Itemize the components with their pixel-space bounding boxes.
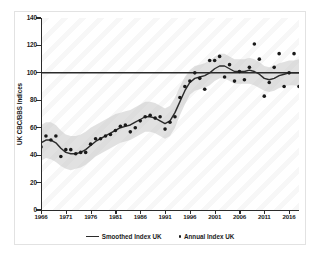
legend-entry-annual: Annual Index UK xyxy=(179,233,235,240)
data-point xyxy=(54,134,58,138)
data-point xyxy=(248,66,252,70)
data-point xyxy=(262,94,266,98)
data-point xyxy=(129,130,133,134)
x-axis-line xyxy=(41,210,299,211)
y-tick-label: 120 xyxy=(13,41,37,48)
data-point xyxy=(109,133,113,137)
data-point xyxy=(69,148,73,152)
chart-legend: Smoothed Index UK Annual Index UK xyxy=(14,233,306,240)
data-point xyxy=(119,125,123,129)
legend-entry-smoothed: Smoothed Index UK xyxy=(86,233,162,240)
data-point xyxy=(267,81,271,85)
data-point xyxy=(272,66,276,70)
data-point xyxy=(143,115,147,119)
data-point xyxy=(292,52,296,56)
data-point xyxy=(198,77,202,81)
data-point xyxy=(203,88,207,92)
data-point xyxy=(223,75,227,79)
data-point xyxy=(238,70,242,74)
y-tick-label: 80 xyxy=(13,96,37,103)
data-point xyxy=(104,134,108,138)
plot-svg xyxy=(41,18,299,210)
data-point xyxy=(253,42,257,46)
data-point xyxy=(183,85,187,89)
plot-area xyxy=(41,18,299,210)
y-axis-title: UK CBC/BBS Indices xyxy=(16,83,23,145)
data-point xyxy=(124,123,128,127)
data-point xyxy=(168,120,172,124)
data-point xyxy=(213,59,217,63)
data-point xyxy=(277,52,281,56)
y-tick-label: 0 xyxy=(13,206,37,213)
data-point xyxy=(193,71,197,75)
data-point xyxy=(148,114,152,118)
data-point xyxy=(163,127,167,131)
data-point xyxy=(74,152,78,156)
y-tick-label: 40 xyxy=(13,151,37,158)
data-point xyxy=(133,126,137,130)
data-point xyxy=(178,96,182,100)
data-point xyxy=(153,116,157,120)
line-marker-icon xyxy=(86,236,99,238)
data-point xyxy=(59,155,63,159)
data-point xyxy=(89,142,93,146)
data-point xyxy=(158,115,162,119)
y-tick-label: 100 xyxy=(13,69,37,76)
data-point xyxy=(94,137,98,141)
dot-marker-icon xyxy=(179,235,181,237)
chart-figure: UK CBC/BBS Indices 020406080100120140 19… xyxy=(0,0,320,256)
data-point xyxy=(84,151,88,155)
y-tick-label: 20 xyxy=(13,179,37,186)
data-point xyxy=(64,148,68,152)
data-point xyxy=(258,57,262,61)
data-point xyxy=(282,85,286,89)
legend-label-smoothed: Smoothed Index UK xyxy=(102,233,162,240)
y-axis-line xyxy=(41,18,42,210)
data-point xyxy=(287,71,291,75)
x-tick-label: 2016 xyxy=(272,213,306,220)
data-point xyxy=(44,134,48,138)
data-point xyxy=(228,63,232,67)
data-point xyxy=(99,137,103,141)
data-point xyxy=(188,79,192,83)
data-point xyxy=(79,151,83,155)
data-point xyxy=(243,78,247,82)
data-point xyxy=(233,79,237,83)
data-point xyxy=(208,59,212,63)
data-point xyxy=(173,115,177,119)
data-point xyxy=(49,138,53,142)
legend-label-annual: Annual Index UK xyxy=(184,233,234,240)
data-point xyxy=(114,129,118,133)
data-point xyxy=(138,119,142,123)
y-tick-label: 140 xyxy=(13,14,37,21)
y-tick-label: 60 xyxy=(13,124,37,131)
data-point xyxy=(218,55,222,59)
